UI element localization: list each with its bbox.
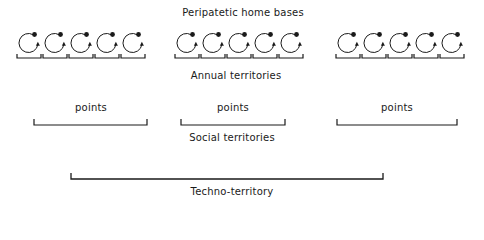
arrow-icon: [114, 42, 118, 46]
annual-territory-bracket: [175, 54, 199, 58]
dot-icon: [377, 32, 382, 37]
social-territories-label: Social territories: [189, 132, 275, 143]
dot-icon: [110, 32, 115, 37]
dot-icon: [58, 32, 63, 37]
annual-territory-bracket: [17, 54, 41, 58]
annual-territory-bracket: [279, 54, 303, 58]
dot-icon: [242, 32, 247, 37]
arrow-icon: [194, 42, 198, 46]
dot-icon: [136, 32, 141, 37]
annual-territory-bracket: [388, 54, 412, 58]
annual-territory-bracket: [95, 54, 119, 58]
arrow-icon: [298, 42, 302, 46]
techno-territory-bracket: [71, 173, 383, 179]
annual-territories-label: Annual territories: [191, 70, 282, 81]
arrow-icon: [140, 42, 144, 46]
arrow-icon: [62, 42, 66, 46]
arrow-icon: [272, 42, 276, 46]
arrow-icon: [355, 42, 359, 46]
annual-territory-bracket: [201, 54, 225, 58]
dot-icon: [190, 32, 195, 37]
dot-icon: [351, 32, 356, 37]
dot-icon: [455, 32, 460, 37]
dot-icon: [268, 32, 273, 37]
annual-territory-bracket: [336, 54, 360, 58]
social-territory-bracket: [34, 119, 147, 125]
arrow-icon: [246, 42, 250, 46]
dot-icon: [216, 32, 221, 37]
arrow-icon: [407, 42, 411, 46]
annual-territory-bracket: [69, 54, 93, 58]
annual-territory-bracket: [440, 54, 464, 58]
dot-icon: [429, 32, 434, 37]
dot-icon: [84, 32, 89, 37]
dot-icon: [294, 32, 299, 37]
dot-icon: [403, 32, 408, 37]
points-label-right: points: [381, 102, 413, 113]
social-territory-bracket: [181, 119, 285, 125]
annual-territory-bracket: [414, 54, 438, 58]
arrow-icon: [36, 42, 40, 46]
annual-territory-bracket: [43, 54, 67, 58]
arrow-icon: [459, 42, 463, 46]
arrow-icon: [433, 42, 437, 46]
annual-territory-bracket: [227, 54, 251, 58]
techno-territory-label: Techno-territory: [191, 186, 274, 197]
annual-territory-bracket: [121, 54, 145, 58]
points-label-middle: points: [217, 102, 249, 113]
arrow-icon: [220, 42, 224, 46]
arrow-icon: [381, 42, 385, 46]
annual-territory-bracket: [253, 54, 277, 58]
dot-icon: [32, 32, 37, 37]
points-label-left: points: [75, 102, 107, 113]
arrow-icon: [88, 42, 92, 46]
social-territory-bracket: [337, 119, 457, 125]
annual-territory-bracket: [362, 54, 386, 58]
